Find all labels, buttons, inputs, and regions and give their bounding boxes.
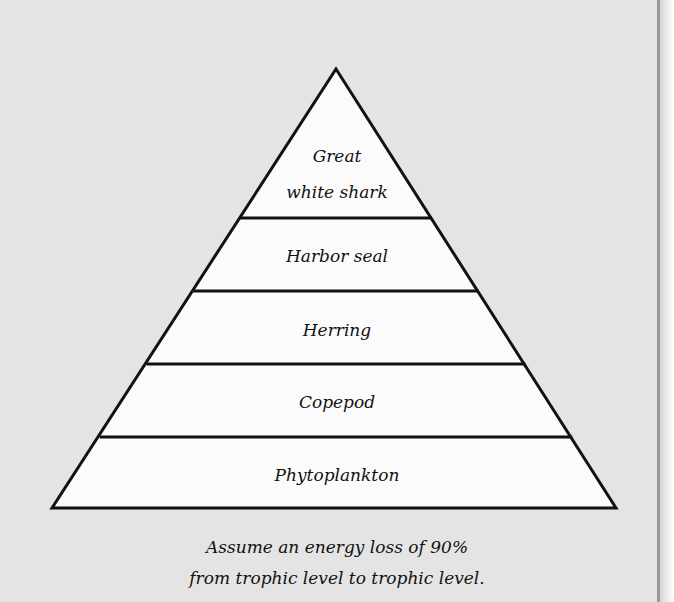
caption-line2: from trophic level to trophic level.: [189, 568, 484, 588]
pyramid-outline: [52, 69, 616, 508]
energy-pyramid: [0, 0, 674, 602]
caption-line1: Assume an energy loss of 90%: [206, 537, 468, 557]
level-label-copepod: Copepod: [299, 394, 375, 411]
level-label-phytoplankton: Phytoplankton: [275, 467, 400, 484]
level-label-apex-line2: white shark: [286, 184, 387, 201]
level-label-harbor-seal: Harbor seal: [286, 248, 388, 265]
level-label-apex-line1: Great: [313, 148, 362, 165]
level-label-herring: Herring: [303, 322, 371, 339]
